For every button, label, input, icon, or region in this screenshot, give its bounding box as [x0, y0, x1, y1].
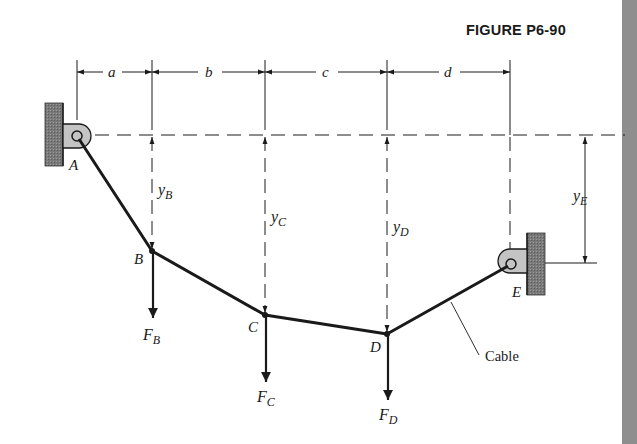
point-label-C: C: [248, 319, 259, 335]
support-A: [45, 103, 91, 166]
support-E: [498, 233, 545, 295]
label-yD: yD: [391, 218, 409, 239]
force-arrows: [153, 252, 388, 400]
force-label-FB: FB: [142, 326, 161, 347]
dimension-b: b: [205, 64, 213, 80]
force-label-FD: FD: [378, 406, 398, 427]
point-label-B: B: [134, 251, 143, 267]
label-yB: yB: [156, 181, 173, 202]
dimension-d: d: [444, 64, 452, 80]
cable-diagram: a b c d yB yC yD yE: [0, 0, 637, 444]
cable-callout-leader: [451, 302, 479, 355]
cable-nodes: [149, 248, 390, 337]
label-yC: yC: [269, 208, 287, 229]
dimension-c: c: [322, 64, 329, 80]
point-label-E: E: [511, 284, 521, 300]
cable: [79, 139, 508, 334]
force-label-FC: FC: [256, 388, 276, 409]
dimension-a: a: [108, 64, 116, 80]
label-yE: yE: [571, 187, 588, 208]
point-label-A: A: [68, 157, 79, 173]
cable-callout-label: Cable: [485, 348, 519, 364]
point-label-D: D: [369, 339, 381, 355]
